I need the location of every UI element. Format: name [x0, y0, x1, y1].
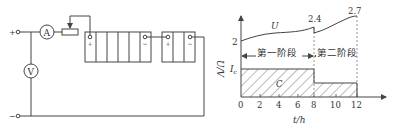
rheostat [62, 29, 78, 35]
battery-large-plus: + [88, 40, 93, 47]
terminal-minus-label: − [9, 112, 16, 121]
x-tick-8: 8 [311, 100, 316, 110]
x-tick-4: 4 [276, 100, 281, 110]
y-tick-2: 2 [232, 37, 238, 47]
x-tick-12: 12 [351, 100, 362, 110]
battery-small-plus: + [166, 40, 171, 47]
voltmeter-label: V [27, 67, 35, 77]
phase-2-label: 第二阶段 [317, 47, 357, 58]
annotation-c: C [276, 79, 283, 89]
voltage-curve [241, 16, 357, 41]
diagram-canvas: + − A + − + − [0, 0, 393, 130]
battery-pack-small [162, 32, 195, 62]
battery-small-minus: − [188, 40, 193, 47]
x-tick-10: 10 [330, 100, 341, 110]
x-tick-6: 6 [295, 100, 300, 110]
terminal-plus-label: + [9, 28, 16, 37]
battery-large-minus: − [143, 40, 148, 47]
ammeter-label: A [43, 28, 51, 38]
x-axis-label: t/h [293, 115, 305, 125]
x-tick-0: 0 [238, 100, 243, 110]
circuit-diagram: + − A + − + − [9, 16, 204, 121]
annotation-2-7: 2.7 [348, 6, 362, 16]
series-u-label: U [271, 21, 279, 31]
y-tick-ic: Ic [229, 64, 238, 75]
terminal-plus [16, 30, 20, 34]
phase-1-label: 第一阶段 [257, 47, 297, 58]
charging-chart: 第一阶段 第二阶段 U 2.4 2.7 C 2 Ic U/V 0 2 4 6 8… [215, 6, 386, 125]
x-tick-2: 2 [257, 100, 262, 110]
annotation-2-4: 2.4 [308, 14, 322, 24]
y-axis-label: U/V [215, 60, 225, 79]
terminal-minus [16, 114, 20, 118]
